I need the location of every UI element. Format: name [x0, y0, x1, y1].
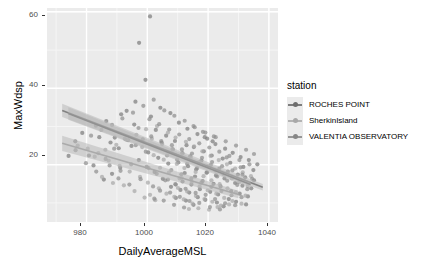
y-tick-mark-20 [42, 155, 45, 156]
x-tick-mark-980 [80, 223, 81, 226]
x-axis-title: DailyAverageMSL [47, 246, 278, 257]
legend-key-valentia-observatory [287, 129, 303, 145]
y-tick-label-20: 20 [18, 151, 38, 159]
legend-label-roches-point: ROCHES POINT [309, 101, 370, 109]
x-tick-mark-1040 [267, 223, 268, 226]
legend-title: station [287, 81, 423, 91]
y-axis-title: MaxWdsp [13, 61, 24, 151]
x-tick-label-1020: 1020 [185, 229, 225, 237]
legend-label-sherkinisland: SherkinIsland [309, 117, 357, 125]
x-tick-label-1000: 1000 [124, 229, 164, 237]
y-tick-mark-60 [42, 15, 45, 16]
legend-item-valentia-observatory[interactable]: VALENTIA OBSERVATORY [287, 129, 423, 145]
plot-panel [47, 8, 278, 222]
legend-label-valentia-observatory: VALENTIA OBSERVATORY [309, 133, 408, 141]
ggplot-scatter-chart: 60 40 20 MaxWdsp 980 1000 1020 1040 Dail… [0, 0, 424, 269]
legend: station ROCHES POINT SherkinIsland VALEN… [287, 81, 423, 145]
y-tick-mark-40 [42, 85, 45, 86]
legend-item-roches-point[interactable]: ROCHES POINT [287, 97, 423, 113]
legend-key-roches-point [287, 97, 303, 113]
y-tick-label-60: 60 [18, 11, 38, 19]
legend-item-sherkinisland[interactable]: SherkinIsland [287, 113, 423, 129]
x-tick-label-980: 980 [60, 229, 100, 237]
x-tick-label-1040: 1040 [247, 229, 287, 237]
data-layer [47, 8, 278, 222]
x-tick-mark-1000 [144, 223, 145, 226]
x-tick-mark-1020 [205, 223, 206, 226]
legend-key-sherkinisland [287, 113, 303, 129]
